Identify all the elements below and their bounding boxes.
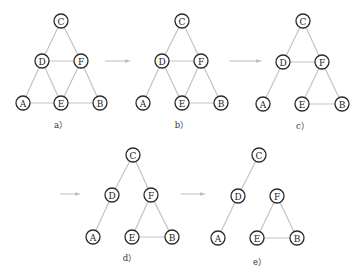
arrowhead-icon	[200, 192, 206, 196]
node-F: F	[270, 189, 284, 203]
node-D: D	[231, 189, 245, 203]
node-label: E	[58, 99, 65, 109]
node-E: E	[295, 97, 309, 111]
node-label: C	[256, 151, 263, 161]
node-label: E	[179, 99, 186, 109]
node-D: D	[105, 188, 119, 202]
panel-caption: a）	[54, 120, 68, 130]
node-A: A	[16, 96, 30, 110]
arrowhead-icon	[256, 59, 262, 63]
node-label: D	[108, 191, 115, 201]
node-label: F	[319, 58, 325, 68]
node-B: B	[165, 230, 179, 244]
node-label: F	[274, 192, 280, 202]
panel-caption: e）	[253, 257, 267, 267]
node-label: B	[218, 99, 225, 109]
node-label: D	[158, 57, 165, 67]
node-F: F	[315, 55, 329, 69]
transition-arrow	[105, 59, 131, 63]
node-E: E	[175, 96, 189, 110]
node-label: A	[214, 234, 222, 244]
node-B: B	[214, 96, 228, 110]
panel-caption: c）	[296, 121, 310, 131]
node-label: D	[279, 58, 286, 68]
node-label: F	[198, 57, 204, 67]
node-E: E	[250, 231, 264, 245]
node-label: E	[129, 233, 136, 243]
node-C: C	[126, 148, 140, 162]
node-B: B	[290, 231, 304, 245]
node-A: A	[211, 231, 225, 245]
node-A: A	[86, 230, 100, 244]
node-label: A	[259, 100, 267, 110]
node-C: C	[175, 14, 189, 28]
node-label: C	[58, 17, 65, 27]
node-A: A	[136, 96, 150, 110]
node-label: A	[89, 233, 97, 243]
node-label: C	[130, 151, 137, 161]
panel-caption: d）	[123, 253, 137, 263]
transition-arrow	[181, 192, 206, 196]
node-E: E	[125, 230, 139, 244]
transition-arrows	[60, 59, 262, 196]
node-D: D	[276, 55, 290, 69]
node-label: B	[169, 233, 176, 243]
node-F: F	[74, 54, 88, 68]
node-label: D	[38, 57, 45, 67]
graph-diagram: CDFAEBCDFAEBCDFAEBCDFAEBCDFAEB a）b）c）d）e…	[0, 0, 356, 277]
arrowhead-icon	[125, 59, 131, 63]
node-label: F	[78, 57, 84, 67]
node-E: E	[54, 96, 68, 110]
node-label: E	[254, 234, 261, 244]
node-D: D	[35, 54, 49, 68]
transition-arrow	[229, 59, 262, 63]
node-C: C	[296, 14, 310, 28]
node-D: D	[155, 54, 169, 68]
node-B: B	[93, 96, 107, 110]
arrowhead-icon	[75, 192, 81, 196]
node-label: D	[234, 192, 241, 202]
transition-arrow	[60, 192, 81, 196]
node-label: E	[299, 100, 306, 110]
node-F: F	[194, 54, 208, 68]
node-A: A	[256, 97, 270, 111]
node-C: C	[252, 148, 266, 162]
node-label: C	[300, 17, 307, 27]
node-label: C	[179, 17, 186, 27]
node-label: F	[148, 191, 154, 201]
node-label: A	[19, 99, 27, 109]
node-label: B	[294, 234, 301, 244]
node-C: C	[54, 14, 68, 28]
node-B: B	[335, 97, 349, 111]
node-label: B	[339, 100, 346, 110]
node-label: B	[97, 99, 104, 109]
panel-caption: b）	[175, 120, 189, 130]
node-F: F	[144, 188, 158, 202]
node-label: A	[139, 99, 147, 109]
